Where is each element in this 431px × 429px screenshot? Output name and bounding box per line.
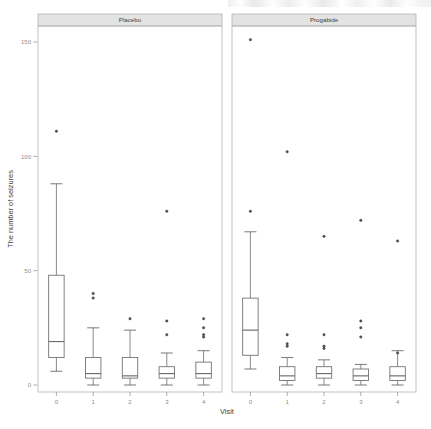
outlier-point (92, 292, 95, 295)
boxplot-placebo-visit-0 (49, 130, 64, 371)
box-iqr (390, 367, 405, 381)
x-axis-tick-label: 3 (359, 399, 363, 405)
box-iqr (122, 358, 137, 379)
outlier-point (286, 345, 289, 348)
outlier-point (396, 240, 399, 243)
boxplot-progabide-visit-1 (279, 151, 294, 385)
box-iqr (85, 358, 100, 379)
x-axis-tick-label: 4 (202, 399, 206, 405)
x-axis-tick-label: 3 (165, 399, 169, 405)
x-axis-tick-label: 0 (55, 399, 59, 405)
boxplot-placebo-visit-1 (85, 292, 100, 385)
outlier-point (323, 333, 326, 336)
y-axis-tick-label: 0 (28, 382, 32, 388)
boxplot-placebo-visit-2 (122, 317, 137, 385)
box-iqr (279, 367, 294, 381)
outlier-point (202, 336, 205, 339)
outlier-point (286, 333, 289, 336)
outlier-point (396, 352, 399, 355)
x-axis-tick-label: 0 (249, 399, 253, 405)
outlier-point (92, 297, 95, 300)
box-iqr (243, 298, 258, 355)
outlier-point (129, 317, 132, 320)
box-iqr (316, 367, 331, 378)
outlier-point (55, 130, 58, 133)
x-axis-tick-label: 1 (286, 399, 290, 405)
boxplot-placebo-visit-3 (159, 210, 174, 385)
outlier-point (202, 317, 205, 320)
outlier-point (166, 210, 169, 213)
y-axis-tick-label: 50 (24, 268, 31, 274)
outlier-point (323, 347, 326, 350)
x-axis-tick-label: 4 (396, 399, 400, 405)
outlier-point (360, 336, 363, 339)
facet-strip-label: Placebo (119, 16, 142, 23)
outlier-point (166, 320, 169, 323)
x-axis-title: Visit (220, 407, 234, 416)
x-axis-tick-label: 2 (322, 399, 326, 405)
boxplot-progabide-visit-4 (390, 240, 405, 385)
boxplot-progabide-visit-2 (316, 235, 331, 385)
y-axis-title: The number of seizures (6, 170, 15, 248)
boxplot-progabide-visit-0 (243, 38, 258, 369)
boxplot-placebo-visit-4 (196, 317, 211, 385)
outlier-point (166, 333, 169, 336)
x-axis-tick-label: 1 (92, 399, 96, 405)
facet-panel-progabide (232, 26, 416, 392)
outlier-point (249, 210, 252, 213)
outlier-point (249, 38, 252, 41)
plot-canvas: 050100150The number of seizuresPlacebo01… (0, 0, 431, 429)
box-iqr (196, 362, 211, 378)
outlier-point (360, 320, 363, 323)
box-iqr (159, 367, 174, 378)
boxplot-figure: 050100150The number of seizuresPlacebo01… (0, 0, 431, 429)
box-iqr (353, 369, 368, 380)
outlier-point (323, 235, 326, 238)
outlier-point (360, 327, 363, 330)
outlier-point (360, 219, 363, 222)
x-axis-tick-label: 2 (128, 399, 132, 405)
box-iqr (49, 275, 64, 357)
y-axis-tick-label: 100 (21, 154, 32, 160)
y-axis-tick-label: 150 (21, 39, 32, 45)
outlier-point (202, 327, 205, 330)
boxplot-progabide-visit-3 (353, 219, 368, 385)
outlier-point (286, 151, 289, 154)
facet-strip-label: Progabide (310, 16, 339, 23)
